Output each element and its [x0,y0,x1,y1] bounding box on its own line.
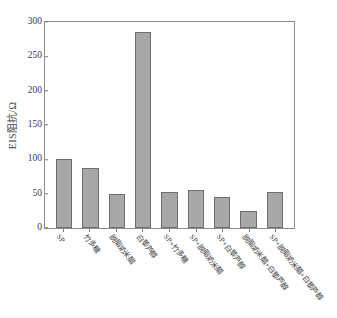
x-axis-label-slot: SP [50,233,77,318]
x-axis-tick-mark [63,229,64,232]
x-axis-tick-mark [89,229,90,232]
y-axis-label: EIS阻抗/Ω [2,60,22,190]
bar [267,192,283,228]
y-axis-tick: 200 [28,86,45,96]
bar-slot [262,22,288,228]
bar [188,190,204,228]
y-axis-tick: 250 [28,52,45,62]
bar [56,159,72,228]
x-axis-category-label: SP+脱脂奶米醋+白藜芦醇 [268,233,324,302]
y-axis-tick-label: 200 [28,86,45,96]
bar [240,211,256,228]
x-axis-tick-mark [222,229,223,232]
x-axis-label-slot: SP+白藜芦醇 [209,233,236,318]
bar-series [45,22,294,228]
x-axis-tick-mark [275,229,276,232]
bar-slot [209,22,235,228]
y-axis-tick-label: 150 [28,120,45,130]
bar [214,197,230,228]
y-axis-tick-label: 50 [33,189,46,199]
x-axis-label-slot: SP+脱脂奶米醋+白藜芦醇 [263,233,290,318]
x-axis-labels: SP竹多糖脱脂奶米醋白藜芦醇SP+竹多糖SP+脱脂奶米醋SP+白藜芦醇脱脂奶米醋… [44,233,295,318]
x-axis-label-slot: 脱脂奶米醋 [103,233,130,318]
bar [82,168,98,228]
bar [161,192,177,228]
bar [135,32,151,228]
bar-slot [183,22,209,228]
bar-slot [130,22,156,228]
x-axis-tick-mark [249,229,250,232]
x-axis-category-label: 白藜芦醇 [135,233,159,260]
y-axis-tick: 300 [28,17,45,27]
x-axis-label-slot: 脱脂奶米醋+白藜芦醇 [236,233,263,318]
y-axis-tick: 150 [28,120,45,130]
x-axis-tick-mark [142,229,143,232]
x-axis-label-slot: SP+脱脂奶米醋 [183,233,210,318]
x-axis-category-label: SP [55,233,66,245]
y-axis-tick-label: 100 [28,155,45,165]
bar-chart-figure: EIS阻抗/Ω 050100150200250300 SP竹多糖脱脂奶米醋白藜芦… [0,0,337,318]
y-axis-tick: 100 [28,155,45,165]
bar-slot [51,22,77,228]
bar-slot [156,22,182,228]
plot-area: 050100150200250300 [44,21,295,229]
x-axis-tick-mark [169,229,170,232]
bar-slot [77,22,103,228]
x-axis-tick-mark [116,229,117,232]
y-axis-tick-label: 250 [28,52,45,62]
bar-slot [235,22,261,228]
x-axis-label-slot: 白藜芦醇 [130,233,157,318]
bar [109,194,125,228]
x-axis-label-slot: SP+竹多糖 [156,233,183,318]
x-axis-category-label: 竹多糖 [82,233,101,255]
bar-slot [104,22,130,228]
y-axis-tick-label: 300 [28,17,45,27]
y-axis-tick: 50 [33,189,46,199]
x-axis-tick-mark [196,229,197,232]
x-axis-label-slot: 竹多糖 [77,233,104,318]
y-axis-label-text: EIS阻抗/Ω [5,101,20,148]
